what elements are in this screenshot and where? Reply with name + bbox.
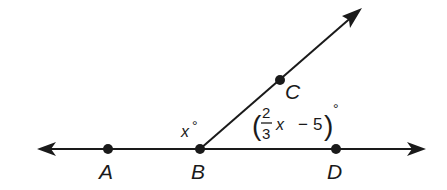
- angle-CBD-denominator: 3: [262, 125, 270, 142]
- arrowhead-ray-icon: [342, 8, 362, 28]
- angle-ABC-degree: °: [192, 118, 198, 134]
- point-A: [103, 144, 113, 154]
- point-B: [195, 144, 205, 154]
- label-D: D: [327, 160, 342, 183]
- label-B: B: [191, 160, 205, 183]
- angle-CBD-open-paren: (: [252, 110, 262, 141]
- angle-CBD-variable: x: [275, 116, 285, 133]
- angle-CBD-degree: °: [333, 101, 339, 117]
- geometry-diagram: A B C D x ° ( 2 3 x − 5 ) °: [0, 0, 447, 190]
- label-C: C: [285, 80, 301, 103]
- angle-ABC-variable: x: [180, 123, 190, 140]
- angle-CBD-numerator: 2: [262, 104, 270, 121]
- angle-CBD-constant: 5: [313, 115, 322, 134]
- label-A: A: [97, 160, 113, 183]
- point-C: [275, 75, 285, 85]
- point-D: [331, 144, 341, 154]
- angle-CBD-operator: −: [298, 115, 308, 134]
- angle-CBD-close-paren: ): [324, 110, 333, 141]
